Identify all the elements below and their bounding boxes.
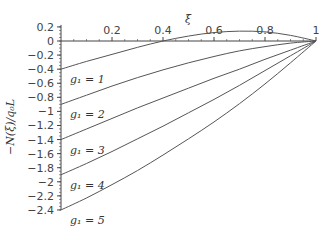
y-tick-label: 0 [47, 35, 54, 48]
y-tick-label: −2.2 [27, 190, 54, 203]
y-tick-label: −0.2 [27, 49, 54, 62]
x-tick-label: 1 [313, 24, 320, 37]
x-axis-label: ξ [185, 13, 192, 26]
annotation-g1-5: g₁ = 5 [70, 214, 105, 227]
y-tick-label: −0.6 [27, 77, 54, 90]
annotation-g1-2: g₁ = 2 [70, 108, 105, 121]
x-axis: 0.20.40.60.81 [61, 24, 320, 41]
y-tick-label: −2.4 [27, 204, 54, 217]
x-tick-label: 0.2 [103, 24, 121, 37]
y-tick-label: −1.4 [27, 134, 54, 147]
y-tick-label: 0.2 [37, 21, 55, 34]
y-axis-label: −N(ξ)/q₀L [4, 99, 17, 155]
y-tick-label: −0.8 [27, 91, 54, 104]
y-tick-label: −1.2 [27, 119, 54, 132]
y-tick-label: −1 [38, 105, 54, 118]
annotation-g1-4: g₁ = 4 [70, 179, 105, 192]
x-tick-label: 0.8 [256, 24, 274, 37]
chart: 0.20−0.2−0.4−0.6−0.8−1−1.2−1.4−1.6−1.8−2… [0, 0, 333, 235]
y-tick-label: −1.6 [27, 148, 54, 161]
annotation-g1-3: g₁ = 3 [70, 144, 105, 157]
y-tick-label: −1.8 [27, 162, 54, 175]
y-tick-label: −2 [38, 176, 54, 189]
y-axis: 0.20−0.2−0.4−0.6−0.8−1−1.2−1.4−1.6−1.8−2… [27, 21, 61, 217]
x-tick-label: 0.4 [154, 24, 172, 37]
annotation-g1-1: g₁ = 1 [70, 73, 105, 86]
y-tick-label: −0.4 [27, 63, 54, 76]
x-tick-label: 0.6 [205, 24, 223, 37]
